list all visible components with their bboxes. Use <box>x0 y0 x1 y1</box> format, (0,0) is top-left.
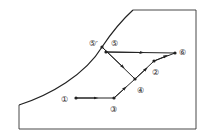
state-diagram: ① ③ ④ ② ⑥ ⑤ ⑤′ <box>0 0 202 140</box>
state-point-1 <box>74 96 77 99</box>
state-point-6 <box>173 51 176 54</box>
label-point-5prime: ⑤′ <box>89 39 98 48</box>
state-point-5 <box>104 50 107 53</box>
label-point-2: ② <box>152 68 159 77</box>
process-line-4-2-arrow <box>135 69 146 79</box>
process-line-5-6-arrow <box>106 52 142 53</box>
state-point-4 <box>133 77 136 80</box>
label-point-1: ① <box>61 95 68 104</box>
label-point-3: ③ <box>110 105 117 114</box>
state-point-3 <box>112 96 115 99</box>
state-point-5prime <box>100 45 103 48</box>
saturation-curve <box>19 10 133 105</box>
label-point-4: ④ <box>137 86 144 95</box>
label-point-6: ⑥ <box>179 48 186 57</box>
diagram-frame <box>19 10 196 129</box>
state-point-2 <box>152 59 155 62</box>
label-point-5: ⑤ <box>111 39 118 48</box>
process-line-3-4-arrow <box>114 88 125 98</box>
process-line-2-6-arrow <box>154 56 166 61</box>
